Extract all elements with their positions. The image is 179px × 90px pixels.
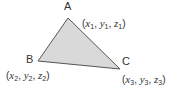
- coord-label-b: (x2, y2, z2): [6, 70, 50, 82]
- coord-label-a: (x1, y1, z1): [82, 18, 126, 30]
- coord-label-c: (x3, y3, z3): [122, 74, 166, 86]
- vertex-label-c: C: [122, 56, 130, 67]
- vertex-label-a: A: [64, 1, 71, 12]
- vertex-label-b: B: [26, 54, 33, 65]
